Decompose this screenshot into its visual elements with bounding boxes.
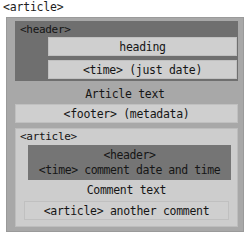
comment-time-label: <time> comment date and time [28, 163, 231, 177]
outer-article-label: <article> [3, 1, 64, 14]
comment-header-block: <header> <time> comment date and time [28, 145, 231, 180]
time-box: <time> (just date) [48, 60, 237, 79]
article-outer-block: <header> heading <time> (just date) Arti… [6, 17, 244, 232]
another-comment-box: <article> another comment [24, 201, 229, 220]
heading-box: heading [48, 37, 237, 56]
nested-article-tag-label: <article> [20, 130, 77, 143]
nested-article-diagram: <article> <header> heading <time> (just … [0, 0, 251, 240]
comment-header-tag-label: <header> [28, 148, 231, 162]
comment-body-text: Comment text [15, 183, 238, 197]
article-header-block: <header> heading <time> (just date) [15, 21, 238, 81]
footer-box: <footer> (metadata) [15, 104, 238, 123]
nested-comment-article-block: <article> <header> <time> comment date a… [15, 128, 238, 227]
article-body-text: Article text [6, 87, 244, 101]
header-tag-label: <header> [20, 23, 71, 36]
